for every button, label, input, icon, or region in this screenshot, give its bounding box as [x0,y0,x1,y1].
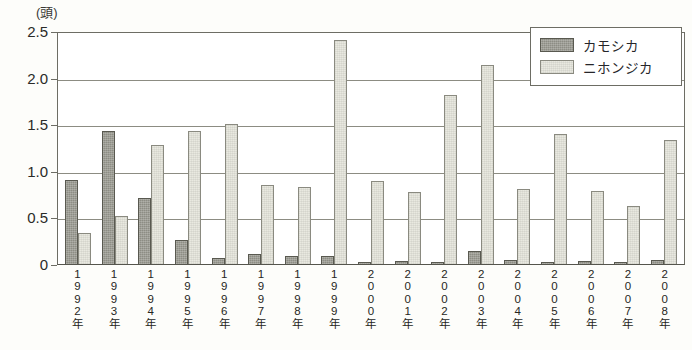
bar-nihonjika[interactable] [371,181,384,264]
bar-kamoshika[interactable] [285,256,298,264]
bar-kamoshika[interactable] [212,258,225,264]
bar-nihonjika[interactable] [78,233,91,264]
y-axis-tick-label: 2.0 [0,70,48,87]
bar-kamoshika[interactable] [614,262,627,264]
bar-kamoshika[interactable] [541,262,554,264]
bar-nihonjika[interactable] [481,65,494,264]
legend-swatch-kamoshika [540,38,574,52]
x-axis-tick-label: 2000年 [353,268,390,348]
bar-group [133,33,170,264]
bar-group [206,33,243,264]
bar-group [426,33,463,264]
x-axis-tick-label: 2008年 [646,268,683,348]
bar-kamoshika[interactable] [468,251,481,264]
bar-group [243,33,280,264]
bar-nihonjika[interactable] [115,216,128,264]
x-axis-tick-label: 2005年 [536,268,573,348]
bar-nihonjika[interactable] [334,40,347,264]
legend-swatch-nihonjika [540,60,574,74]
x-axis-tick-label: 2001年 [389,268,426,348]
bar-nihonjika[interactable] [517,189,530,264]
bar-nihonjika[interactable] [627,206,640,264]
bar-kamoshika[interactable] [138,198,151,264]
bar-group [316,33,353,264]
bar-group [389,33,426,264]
legend-item-kamoshika[interactable]: カモシカ [540,34,673,56]
bar-nihonjika[interactable] [408,192,421,264]
x-axis-tick-label: 1993年 [96,268,133,348]
y-axis-tick-label: 0.5 [0,210,48,227]
x-axis-tick-label: 2004年 [499,268,536,348]
legend-label-nihonjika: ニホンジカ [583,57,653,77]
x-axis-tick-label: 1997年 [243,268,280,348]
x-axis-tick-label: 1994年 [132,268,169,348]
bar-group [170,33,207,264]
y-axis-tick-label: 0 [0,256,48,273]
x-axis-tick-label: 1996年 [206,268,243,348]
y-axis-tick-label: 1.0 [0,163,48,180]
x-axis-tick-label: 2002年 [426,268,463,348]
x-axis-tick-label: 1992年 [59,268,96,348]
bar-kamoshika[interactable] [431,262,444,264]
bar-nihonjika[interactable] [298,187,311,264]
bar-group [463,33,500,264]
y-axis-tick-mark [51,265,57,266]
x-axis-tick-label: 1995年 [169,268,206,348]
bar-nihonjika[interactable] [591,191,604,264]
bar-kamoshika[interactable] [578,261,591,264]
x-axis-tick-label: 2006年 [573,268,610,348]
bar-kamoshika[interactable] [321,256,334,264]
bar-nihonjika[interactable] [664,140,677,264]
bar-group [60,33,97,264]
bar-kamoshika[interactable] [175,240,188,264]
legend-item-nihonjika[interactable]: ニホンジカ [540,56,673,78]
bar-kamoshika[interactable] [651,260,664,264]
bar-group [97,33,134,264]
bar-group [353,33,390,264]
bar-kamoshika[interactable] [65,180,78,264]
bar-kamoshika[interactable] [504,260,517,264]
x-axis-tick-label: 1999年 [316,268,353,348]
bar-kamoshika[interactable] [102,131,115,264]
bar-kamoshika[interactable] [395,261,408,264]
chart-figure: (頭) 00.51.01.52.02.5 1992年1993年1994年1995… [0,0,692,350]
bar-nihonjika[interactable] [225,124,238,264]
y-axis-tick-label: 2.5 [0,23,48,40]
chart-legend: カモシカ ニホンジカ [530,27,682,86]
bar-nihonjika[interactable] [188,131,201,264]
x-axis-tick-label: 2003年 [463,268,500,348]
bar-nihonjika[interactable] [151,145,164,264]
bar-kamoshika[interactable] [248,254,261,264]
bar-nihonjika[interactable] [261,185,274,264]
bar-nihonjika[interactable] [444,95,457,264]
bar-nihonjika[interactable] [554,134,567,264]
y-axis-tick-label: 1.5 [0,116,48,133]
x-axis-tick-label: 2007年 [610,268,647,348]
x-axis-tick-label: 1998年 [279,268,316,348]
y-axis: 00.51.01.52.02.5 [0,0,57,350]
x-axis-labels: 1992年1993年1994年1995年1996年1997年1998年1999年… [57,268,685,348]
bar-kamoshika[interactable] [358,262,371,264]
bar-group [280,33,317,264]
legend-label-kamoshika: カモシカ [583,35,639,55]
